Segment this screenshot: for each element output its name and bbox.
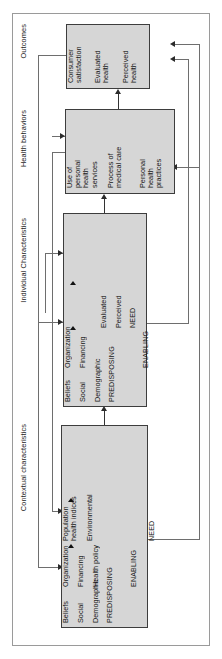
contextual-predisposing-beliefs: Beliefs xyxy=(62,426,77,627)
section-label-contextual-characteristics: Contextual characteristics xyxy=(16,424,32,629)
section-label-outcomes-text: Outcomes xyxy=(20,24,28,58)
inline-arrow-enabling-to-need-contextual xyxy=(68,498,74,502)
contextual-head-enabling: ENABLING xyxy=(131,426,147,627)
connector-contextual-to-individual xyxy=(104,411,105,425)
contextual-characteristics-box[interactable]: NEED Environmental Population health ind… xyxy=(61,425,148,628)
diagram-canvas: Outcomes Health behaviors Individual Cha… xyxy=(0,0,222,659)
outcomes-box[interactable]: Perceived health Evaluated health Consum… xyxy=(66,24,150,89)
connector-into-outcomes-left xyxy=(38,55,66,56)
individual-head-enabling: ENABLING xyxy=(143,214,159,406)
feedback-rail-outcomes-b-top xyxy=(174,59,189,60)
arrowhead-feedback-outcomes-a xyxy=(170,41,175,47)
health-behaviors-box[interactable]: Personal health practices Process of med… xyxy=(65,109,175,194)
outcomes-item-consumer-satisfaction: Consumer satisfaction xyxy=(67,25,94,88)
section-label-health-behaviors-text: Health behaviors xyxy=(20,110,28,167)
section-label-individual-characteristics-text: Individual Characteristics xyxy=(20,218,28,303)
behaviors-item-personal-health-practices: Personal health practices xyxy=(139,110,174,193)
feedback-rail-outcomes-a-top xyxy=(174,44,200,45)
feedback-left-rail3-vert xyxy=(45,253,46,313)
individual-predisposing-demographic: Demographic xyxy=(94,214,109,406)
feedback-rail-outcomes-b-right xyxy=(188,59,189,224)
individual-head-predisposing: PREDISPOSING xyxy=(109,214,125,406)
arrowhead-individual-to-behaviors xyxy=(101,194,107,199)
inline-arrow-predisposing-to-enabling-individual xyxy=(70,326,76,330)
contextual-predisposing-social: Social xyxy=(77,426,92,627)
inline-arrow-enabling-to-need-individual xyxy=(70,281,76,285)
contextual-predisposing-demographic: Demographic xyxy=(92,426,107,627)
feedback-left-rail1-vert xyxy=(38,55,39,568)
feedback-rail-outcomes-a-right xyxy=(199,44,200,168)
behaviors-item-process-of-medical-care: Process of medical care xyxy=(107,110,139,193)
section-label-contextual-characteristics-text: Contextual characteristics xyxy=(20,424,28,511)
outcomes-item-perceived-health: Perceived health xyxy=(122,25,149,88)
section-label-individual-characteristics: Individual Characteristics xyxy=(16,218,32,408)
outcomes-item-evaluated-health: Evaluated health xyxy=(94,25,121,88)
feedback-left-rail2-vert xyxy=(52,152,53,512)
arrowhead-behaviors-to-outcomes xyxy=(115,89,121,94)
feedback-rail-individual-right xyxy=(188,224,189,324)
connector-into-behaviors-right xyxy=(176,167,188,168)
section-label-outcomes: Outcomes xyxy=(16,24,32,102)
contextual-head-predisposing: PREDISPOSING xyxy=(107,426,123,627)
inline-arrow-predisposing-to-enabling-contextual xyxy=(68,544,74,548)
arrowhead-feedback-outcomes-b xyxy=(170,56,175,62)
behaviors-item-use-of-personal-health-services: Use of personal health services xyxy=(66,110,107,193)
individual-predisposing-beliefs: Beliefs xyxy=(64,214,79,406)
connector-behaviors-to-outcomes xyxy=(118,94,119,109)
individual-characteristics-box[interactable]: NEED Perceived Evaluated ENABLING Financ… xyxy=(63,213,147,407)
connector-individual-to-behaviors xyxy=(104,199,105,213)
contextual-head-need: NEED xyxy=(149,426,165,627)
individual-predisposing-social: Social xyxy=(79,214,94,406)
feedback-rail-contextual-right xyxy=(199,168,200,540)
section-label-health-behaviors: Health behaviors xyxy=(16,110,32,210)
